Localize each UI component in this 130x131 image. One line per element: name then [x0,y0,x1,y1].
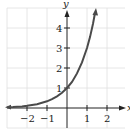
curve-arrow-icon [93,8,99,16]
y-axis-arrow-icon [65,10,70,17]
y-axis-label: y [62,0,69,9]
exponential-graph: x y −2 −1 1 2 1 2 3 4 [0,0,130,131]
y-tick-label: 4 [56,23,62,34]
x-tick-label: 1 [84,113,90,124]
x-tick-label: 2 [104,113,110,124]
exponential-curve [8,13,95,107]
x-axis-arrow-icon [119,106,126,111]
y-tick-label: 2 [56,63,62,74]
x-tick-label: −2 [20,113,35,124]
y-tick-label: 3 [56,43,62,54]
x-axis-label: x [127,102,130,113]
x-tick-label: −1 [40,113,55,124]
curve-left-arrow-icon [5,105,11,110]
